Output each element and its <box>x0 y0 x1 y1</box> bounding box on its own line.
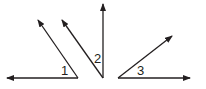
angles-diagram <box>0 0 206 89</box>
angle-1-ray-upleft <box>38 20 78 78</box>
angle-3-ray-upright <box>118 36 172 78</box>
angle-3-label: 3 <box>137 64 144 77</box>
angle-3 <box>118 36 190 78</box>
angle-1-label: 1 <box>61 64 68 77</box>
angle-2-label: 2 <box>94 52 101 65</box>
